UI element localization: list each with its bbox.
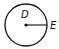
point-label-e: E (50, 20, 57, 31)
center-label: D (21, 9, 29, 20)
circle-diagram: D E (0, 0, 59, 49)
center-point-dot (24, 23, 27, 26)
